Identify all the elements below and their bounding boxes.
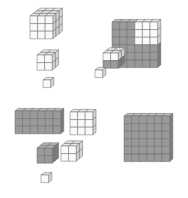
bottom-left-cube-front — [38, 119, 46, 127]
bottom-right-cube-front — [139, 131, 147, 139]
top-right-cube-front — [150, 45, 158, 53]
bottom-right-cube-front — [154, 154, 162, 162]
top-right-cube-front — [135, 60, 143, 68]
top-right-cube-front — [142, 60, 150, 68]
top-right-cube-front — [127, 45, 135, 53]
bottom-left-cube-front — [37, 148, 45, 156]
top-right-cube-front — [142, 45, 150, 53]
bottom-left-cube-front — [15, 126, 23, 134]
bottom-left-cube-front — [23, 111, 31, 119]
bottom-right-cube-front — [139, 124, 147, 132]
top-right-cube-front — [120, 37, 128, 45]
bottom-right-cube-front — [147, 131, 155, 139]
bottom-left-cube-front — [41, 175, 49, 183]
bottom-right-cube-front — [162, 124, 170, 132]
top-right-cube-front — [150, 37, 158, 45]
top-left-cube-front — [30, 24, 38, 32]
top-left-cube-front — [30, 16, 38, 24]
top-right-cube-front — [112, 30, 120, 38]
bottom-right-cube-front — [147, 124, 155, 132]
top-left-cube-front — [43, 80, 51, 88]
bottom-left-cube-front — [70, 112, 78, 120]
bottom-left-cube-front — [30, 119, 38, 127]
bottom-left-cube-front — [38, 111, 46, 119]
bottom-right-cube-front — [154, 139, 162, 147]
bottom-right-cube-front — [132, 131, 140, 139]
top-right-cube-front — [150, 22, 158, 30]
bottom-right-cube-front — [162, 154, 170, 162]
top-right-cube-front — [120, 30, 128, 38]
bottom-left-cube-front — [70, 120, 78, 128]
top-right-cube-front — [120, 22, 128, 30]
bottom-left-cube-front — [85, 120, 93, 128]
top-right-cube-front — [142, 37, 150, 45]
bottom-left-cube-front — [15, 111, 23, 119]
bottom-right-cube-front — [132, 146, 140, 154]
bottom-right-cube-front — [154, 116, 162, 124]
bottom-left-cube-front — [53, 111, 61, 119]
top-left-cube-front — [45, 24, 53, 32]
bottom-right-cube-front — [124, 139, 132, 147]
bottom-right-cube-front — [154, 131, 162, 139]
bottom-left-cube-front — [78, 120, 86, 128]
top-right-cube-front — [150, 60, 158, 68]
top-right-cube-front — [127, 30, 135, 38]
top-right-cube-front — [127, 37, 135, 45]
cube-diagram — [0, 0, 188, 198]
top-right-cube-front — [150, 52, 158, 60]
top-right-cube-front — [127, 22, 135, 30]
bottom-right-cube-front — [124, 124, 132, 132]
top-right-cube-front — [135, 52, 143, 60]
bottom-left-cube-front — [53, 119, 61, 127]
top-left-cube-front — [45, 31, 53, 39]
bottom-right-cube-front — [147, 139, 155, 147]
top-right-cube-front — [95, 70, 103, 78]
top-right-cube-front — [112, 37, 120, 45]
bottom-right-cube-front — [124, 116, 132, 124]
bottom-right-cube-front — [139, 146, 147, 154]
bottom-left-cube-front — [30, 126, 38, 134]
bottom-left-cube-front — [30, 111, 38, 119]
bottom-right-cube-front — [147, 154, 155, 162]
bottom-right-cube-front — [162, 139, 170, 147]
bottom-right-cube-front — [132, 124, 140, 132]
top-right-cube-front — [135, 45, 143, 53]
top-left-cube-front — [38, 31, 46, 39]
bottom-right-cube-front — [124, 131, 132, 139]
bottom-left-cube-front — [78, 127, 86, 135]
bottom-left-cube-front — [37, 156, 45, 164]
bottom-right-cube-front — [124, 154, 132, 162]
top-right-cube-front — [142, 52, 150, 60]
bottom-left-cube-front — [23, 126, 31, 134]
bottom-left-cube-front — [69, 146, 77, 154]
bottom-right-cube-front — [162, 146, 170, 154]
top-right-cube-front — [142, 30, 150, 38]
bottom-left-cube-front — [15, 119, 23, 127]
bottom-right-cube-front — [147, 146, 155, 154]
top-left-cube-front — [45, 55, 53, 63]
top-right-cube-front — [135, 22, 143, 30]
top-right-cube-front — [127, 60, 135, 68]
bottom-right-cube-front — [139, 139, 147, 147]
top-right-cube-front — [112, 22, 120, 30]
bottom-right-cube-front — [139, 154, 147, 162]
top-right-cube-front — [135, 37, 143, 45]
bottom-left-cube-front — [45, 119, 53, 127]
bottom-right-cube-front — [139, 116, 147, 124]
bottom-right-cube-front — [162, 131, 170, 139]
bottom-right-cube-front — [132, 154, 140, 162]
top-left-cube-front — [38, 24, 46, 32]
bottom-left-cube-front — [61, 154, 69, 162]
top-right-cube-front — [150, 30, 158, 38]
top-left-cube-front — [30, 31, 38, 39]
top-left-cube-front — [37, 63, 45, 71]
top-right-cube-front — [103, 61, 111, 69]
bottom-left-cube-front — [45, 126, 53, 134]
bottom-left-cube-front — [38, 126, 46, 134]
bottom-left-cube-front — [45, 111, 53, 119]
bottom-left-cube-front — [78, 112, 86, 120]
bottom-right-cube-front — [154, 146, 162, 154]
top-right-cube-front — [127, 52, 135, 60]
bottom-left-cube-front — [85, 112, 93, 120]
bottom-right-cube-front — [132, 116, 140, 124]
